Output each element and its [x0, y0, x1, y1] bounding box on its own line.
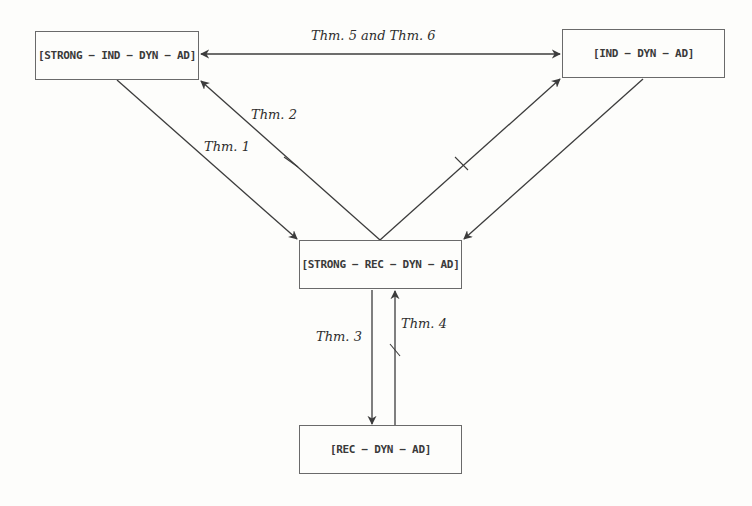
edge-thm1	[117, 80, 297, 239]
node-label: [REC − DYN − AD]	[330, 443, 431, 456]
negation-mark-thm2	[284, 157, 298, 167]
node-label: [IND − DYN − AD]	[593, 47, 694, 60]
node-strong-ind-dyn-ad: [STRONG − IND − DYN − AD]	[35, 31, 199, 80]
label-thm2: Thm. 2	[251, 107, 297, 122]
node-strong-rec-dyn-ad: [STRONG − REC − DYN − AD]	[299, 240, 462, 289]
node-ind-dyn-ad: [IND − DYN − AD]	[562, 29, 725, 78]
label-thm3: Thm. 3	[316, 329, 362, 344]
node-rec-dyn-ad: [REC − DYN − AD]	[299, 425, 462, 474]
label-thm5-thm6: Thm. 5 and Thm. 6	[311, 28, 436, 43]
edge-thm2	[201, 81, 380, 240]
label-thm4: Thm. 4	[401, 316, 447, 331]
node-label: [STRONG − REC − DYN − AD]	[301, 258, 459, 271]
label-thm1: Thm. 1	[204, 139, 250, 154]
node-label: [STRONG − IND − DYN − AD]	[38, 49, 196, 62]
edge-ind-to-strong-rec	[464, 79, 643, 239]
edge-strong-rec-to-ind	[380, 79, 560, 240]
